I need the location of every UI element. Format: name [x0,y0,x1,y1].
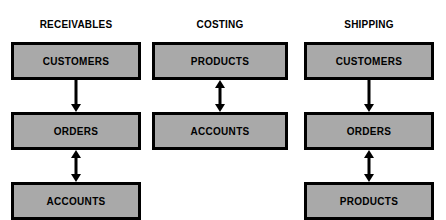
node-box-accounts[interactable]: ACCOUNTS [11,182,141,220]
node-box-orders[interactable]: ORDERS [11,112,141,150]
node-box-products[interactable]: PRODUCTS [304,182,434,220]
arrowhead-down-icon [71,174,81,182]
node-box-orders[interactable]: ORDERS [304,112,434,150]
node-label: ACCOUNTS [190,126,249,137]
diagram-column-shipping: SHIPPING SYSTEM CUSTOMERS ORDERS PRODUCT… [304,0,434,220]
arrowhead-down-icon [364,174,374,182]
node-box-customers[interactable]: CUSTOMERS [304,42,434,80]
connector-line [368,80,371,104]
node-label: ORDERS [347,126,392,137]
node-label: ACCOUNTS [46,196,105,207]
node-label: PRODUCTS [340,196,399,207]
column-title-line1: RECEIVABLES [11,18,141,31]
connector-orders-to-accounts [68,150,84,182]
node-box-products[interactable]: PRODUCTS [152,42,288,80]
connector-line [219,87,222,105]
connector-products-to-accounts [212,80,228,112]
node-box-accounts[interactable]: ACCOUNTS [152,112,288,150]
column-title-line1: COSTING [152,18,288,31]
system-diagram-canvas: RECEIVABLES SYSTEM CUSTOMERS ORDERS ACCO… [0,0,446,220]
connector-line [368,157,371,175]
diagram-column-receivables: RECEIVABLES SYSTEM CUSTOMERS ORDERS ACCO… [11,0,141,220]
connector-customers-to-orders [68,80,84,112]
node-label: CUSTOMERS [336,56,402,67]
arrowhead-down-icon [71,104,81,112]
arrowhead-down-icon [364,104,374,112]
connector-line [75,157,78,175]
node-box-customers[interactable]: CUSTOMERS [11,42,141,80]
connector-orders-to-products [361,150,377,182]
node-label: ORDERS [54,126,99,137]
arrowhead-down-icon [215,104,225,112]
node-label: CUSTOMERS [43,56,109,67]
connector-customers-to-orders [361,80,377,112]
column-title-line1: SHIPPING [304,18,434,31]
node-label: PRODUCTS [191,56,250,67]
diagram-column-costing: COSTING SYSTEM PRODUCTS ACCOUNTS [152,0,288,220]
connector-line [75,80,78,104]
